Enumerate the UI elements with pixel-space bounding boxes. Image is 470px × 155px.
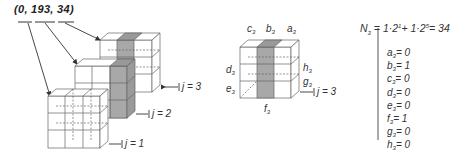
label-c: c3 xyxy=(247,24,255,37)
label-a: a3 xyxy=(287,24,296,37)
center-cube xyxy=(240,40,299,98)
label-g: g3 xyxy=(303,77,312,90)
label-e: e3 xyxy=(226,84,235,97)
label-f: f3 xyxy=(264,104,270,117)
value-h: h3= 0 xyxy=(387,140,410,153)
label-b: b3 xyxy=(266,24,275,37)
label-j2: j = 2 xyxy=(152,109,171,119)
label-j3: j = 3 xyxy=(182,82,201,92)
values-list: a3= 0 b3= 1 c3= 0 d3= 0 e3= 0 f3= 1 g3= … xyxy=(387,48,410,154)
label-h: h3 xyxy=(303,63,312,76)
cube-layer-j1 xyxy=(48,89,108,148)
equation: N3 = 1·21+ 1·25= 34 xyxy=(360,22,450,36)
label-center-j3: j = 3 xyxy=(317,87,336,97)
label-d: d3 xyxy=(226,65,235,78)
label-j1: j = 1 xyxy=(125,139,144,149)
